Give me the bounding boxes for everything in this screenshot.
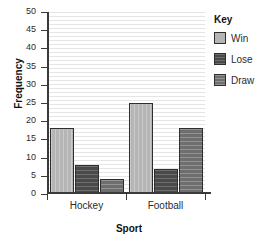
y-tick-label: 45 xyxy=(12,25,36,34)
bar-football-win xyxy=(129,103,153,194)
y-tick-label: 5 xyxy=(12,171,36,180)
legend-title: Key xyxy=(214,14,272,25)
x-axis-line xyxy=(47,192,211,194)
y-tick-label: 0 xyxy=(12,189,36,198)
legend-swatch-draw xyxy=(214,74,226,86)
legend-label: Win xyxy=(231,33,248,44)
legend: Key WinLoseDraw xyxy=(214,14,272,95)
legend-item-draw[interactable]: Draw xyxy=(214,74,272,86)
y-axis-title: Frequency xyxy=(13,44,24,124)
legend-label: Draw xyxy=(231,75,254,86)
bar-hockey-lose xyxy=(75,165,99,194)
y-tick xyxy=(41,30,47,31)
y-tick xyxy=(41,67,47,68)
x-axis-title: Sport xyxy=(47,223,211,234)
y-tick xyxy=(41,139,47,140)
legend-item-win[interactable]: Win xyxy=(214,32,272,44)
y-tick xyxy=(41,158,47,159)
legend-swatch-win xyxy=(214,32,226,44)
legend-entries: WinLoseDraw xyxy=(214,32,272,86)
y-tick-label: 10 xyxy=(12,153,36,162)
y-tick xyxy=(41,103,47,104)
bar-hockey-win xyxy=(50,128,74,194)
x-category-label-football: Football xyxy=(126,200,206,211)
y-tick-label: 15 xyxy=(12,134,36,143)
x-category-label-hockey: Hockey xyxy=(47,200,127,211)
bar-chart: 05101520253035404550 HockeyFootball Freq… xyxy=(0,0,275,243)
y-tick xyxy=(41,48,47,49)
legend-item-lose[interactable]: Lose xyxy=(214,53,272,65)
bar-football-lose xyxy=(154,169,178,194)
y-tick xyxy=(41,12,47,13)
plot-area xyxy=(47,12,205,194)
bar-football-draw xyxy=(179,128,203,194)
y-tick-label: 50 xyxy=(12,7,36,16)
y-tick xyxy=(41,121,47,122)
bar-series-layer xyxy=(47,12,205,194)
y-axis-line xyxy=(47,12,49,194)
legend-swatch-lose xyxy=(214,53,226,65)
legend-label: Lose xyxy=(231,54,253,65)
y-tick xyxy=(41,85,47,86)
y-tick xyxy=(41,176,47,177)
